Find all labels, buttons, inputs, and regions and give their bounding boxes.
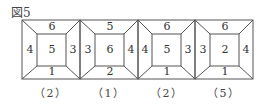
panel-1-left: 4: [25, 43, 35, 56]
panel-3-top: 6: [162, 20, 172, 33]
panel-4-center: 2: [220, 43, 230, 56]
panel-2-right: 4: [126, 43, 136, 56]
panel-4-bottom: 1: [220, 65, 230, 78]
panel-4-right: 4: [241, 43, 251, 56]
panel-3-left: 4: [140, 43, 150, 56]
panel-2-center: 6: [105, 43, 115, 56]
panel-1-center: 5: [47, 43, 57, 56]
panel-1-top: 6: [47, 20, 57, 33]
panel-2-left: 3: [83, 43, 93, 56]
panel-1-right: 3: [68, 43, 78, 56]
panel-1-bottom: 1: [47, 65, 57, 78]
panel-3-caption: （2）: [138, 84, 196, 100]
panel-4-left: 3: [198, 43, 208, 56]
panel-4-top: 6: [220, 20, 230, 33]
panel-2-caption: （1）: [80, 84, 138, 100]
panel-4-caption: （5）: [195, 84, 253, 100]
panel-1-caption: （2）: [22, 84, 80, 100]
panel-2-bottom: 2: [105, 65, 115, 78]
panel-3-center: 5: [162, 43, 172, 56]
panel-2-top: 5: [105, 20, 115, 33]
panel-3-right: 3: [183, 43, 193, 56]
panel-3-bottom: 1: [162, 65, 172, 78]
